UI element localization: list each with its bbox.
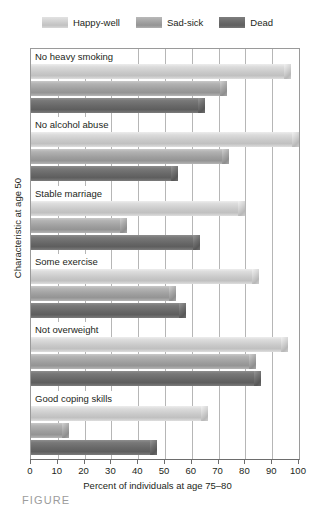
x-axis-tick — [298, 459, 299, 464]
x-axis-ticklabel: 100 — [290, 465, 306, 477]
x-axis-ticklabel: 60 — [186, 465, 197, 477]
bar-group-label: No alcohol abuse — [35, 117, 111, 132]
bar-sad-sick — [31, 81, 227, 96]
x-axis-tick — [30, 459, 31, 464]
bar-tip — [281, 337, 288, 352]
bar-dead — [31, 371, 261, 386]
bar-tip — [220, 81, 227, 96]
x-axis-tick — [191, 459, 192, 464]
bar-tip — [222, 149, 229, 164]
bar-dead — [31, 235, 200, 250]
plot-area: No heavy smokingNo alcohol abuseStable m… — [30, 48, 300, 460]
bar-happy-well — [31, 64, 291, 79]
bar-tip — [171, 166, 178, 181]
y-axis-title: Characteristic at age 50 — [12, 153, 24, 303]
legend-item-dead: Dead — [219, 17, 273, 28]
x-axis-ticklabel: 20 — [78, 465, 89, 477]
x-axis-ticklabel: 10 — [52, 465, 63, 477]
x-axis-ticklabel: 70 — [212, 465, 223, 477]
bar-happy-well — [31, 132, 299, 147]
bar-group-label: Stable marriage — [35, 186, 105, 201]
x-axis-ticklabel: 80 — [239, 465, 250, 477]
bar-dead — [31, 440, 157, 455]
bar-tip — [238, 201, 245, 216]
bar-tip — [179, 303, 186, 318]
bar-sad-sick — [31, 218, 127, 233]
x-axis-ticklabel: 30 — [105, 465, 116, 477]
x-axis-ticklabels: 0102030405060708090100 — [30, 465, 298, 479]
x-axis-title: Percent of individuals at age 75–80 — [0, 480, 315, 492]
x-axis-tick — [57, 459, 58, 464]
bar-sad-sick — [31, 354, 256, 369]
bar-tip — [62, 423, 69, 438]
x-axis-tick — [218, 459, 219, 464]
bar-tip — [169, 286, 176, 301]
bar-tip — [150, 440, 157, 455]
legend-item-happy-well: Happy-well — [42, 17, 120, 28]
bar-group: Stable marriage — [31, 186, 299, 254]
bar-group: Some exercise — [31, 254, 299, 322]
chart-legend: Happy-well Sad-sick Dead — [0, 12, 315, 32]
bar-tip — [193, 235, 200, 250]
x-axis-tick — [84, 459, 85, 464]
bar-group-label: No heavy smoking — [35, 49, 116, 64]
bar-group: No heavy smoking — [31, 49, 299, 117]
bar-group-label: Some exercise — [35, 254, 101, 269]
figure-caption: FIGURE — [22, 494, 70, 505]
bar-happy-well — [31, 269, 259, 284]
bar-group: Good coping skills — [31, 391, 299, 459]
bar-tip — [292, 132, 299, 147]
x-axis-ticklabel: 0 — [27, 465, 32, 477]
x-axis-tick — [271, 459, 272, 464]
x-axis-tick — [137, 459, 138, 464]
bar-tip — [201, 406, 208, 421]
bar-tip — [249, 354, 256, 369]
x-axis-ticklabel: 50 — [159, 465, 170, 477]
bar-tip — [284, 64, 291, 79]
bar-sad-sick — [31, 286, 176, 301]
legend-label: Dead — [250, 17, 273, 28]
x-axis-ticklabel: 40 — [132, 465, 143, 477]
legend-swatch-icon — [42, 17, 68, 28]
bar-sad-sick — [31, 149, 229, 164]
bar-happy-well — [31, 201, 245, 216]
bar-group: No alcohol abuse — [31, 117, 299, 185]
legend-label: Sad-sick — [167, 17, 203, 28]
bar-sad-sick — [31, 423, 69, 438]
legend-item-sad-sick: Sad-sick — [136, 17, 203, 28]
bar-groups: No heavy smokingNo alcohol abuseStable m… — [31, 49, 299, 459]
x-axis-ticklabel: 90 — [266, 465, 277, 477]
x-axis-tick — [244, 459, 245, 464]
bar-tip — [120, 218, 127, 233]
x-axis-tick — [110, 459, 111, 464]
bar-group: Not overweight — [31, 322, 299, 390]
legend-label: Happy-well — [73, 17, 120, 28]
bar-group-label: Not overweight — [35, 322, 101, 337]
x-axis-tick — [164, 459, 165, 464]
bar-dead — [31, 303, 186, 318]
bar-tip — [198, 98, 205, 113]
bar-dead — [31, 98, 205, 113]
bar-happy-well — [31, 337, 288, 352]
bar-group-label: Good coping skills — [35, 391, 115, 406]
legend-swatch-icon — [136, 17, 162, 28]
legend-swatch-icon — [219, 17, 245, 28]
bar-happy-well — [31, 406, 208, 421]
bar-tip — [254, 371, 261, 386]
bar-tip — [252, 269, 259, 284]
bar-dead — [31, 166, 178, 181]
